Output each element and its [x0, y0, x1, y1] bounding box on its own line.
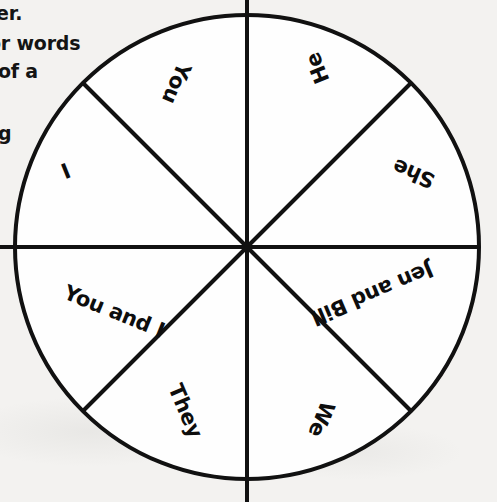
worksheet-page: er. or words of a g HeSheJen and BillWeT… [0, 0, 497, 502]
spinner-wheel[interactable] [0, 0, 497, 502]
